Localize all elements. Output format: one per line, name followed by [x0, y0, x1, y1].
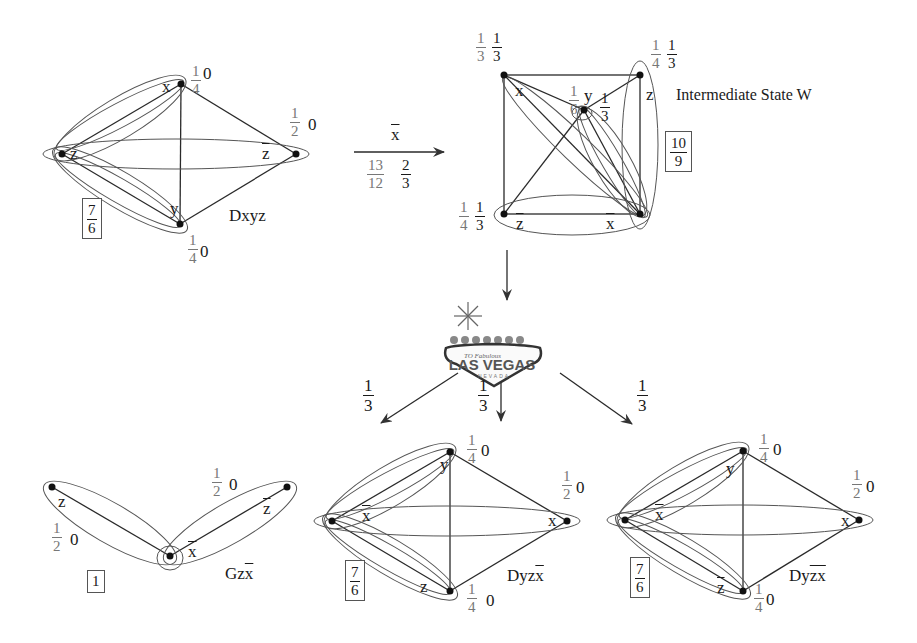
transition-label: x [391, 126, 400, 143]
weight-z-a: 14 [651, 38, 661, 71]
weight-zbar: 12 [212, 466, 222, 499]
graph-gzx [34, 468, 306, 579]
label-zbar: z [516, 215, 524, 232]
las-vegas-sign-icon: TO Fabulous LAS VEGAS NEVADA [432, 300, 556, 390]
label-y: y [440, 456, 449, 473]
boxed-value-dyzx: 76 [345, 560, 365, 601]
transition-right-value: 23 [401, 158, 411, 191]
weight-x-a: 13 [476, 31, 486, 64]
weight-y-a: 16 [569, 84, 579, 117]
weight-zbar-a: 14 [459, 200, 469, 233]
weight-x: 12 [562, 469, 572, 502]
weight-x: 12 [852, 468, 862, 501]
label-xbar: x [655, 506, 664, 523]
branch-prob-right: 13 [637, 377, 648, 414]
weight-zbar: 12 [290, 106, 300, 139]
boxed-value-intermediate: 109 [665, 131, 692, 172]
transition-left-value: 1312 [367, 158, 384, 191]
weight-z: 12 [52, 521, 62, 554]
weight-zbar: 14 [754, 582, 764, 615]
graph-title-dyzbarxbar: Dyzx [789, 567, 826, 584]
label-z: z [70, 145, 78, 162]
graph-title-intermediate: Intermediate State W [676, 86, 812, 104]
weight-z: 14 [467, 582, 477, 615]
label-zbar: z [717, 579, 725, 596]
label-y: y [726, 460, 735, 477]
graph-title-dxyz: Dxyz [229, 207, 266, 224]
label-x: x [548, 512, 557, 529]
weight-y: 14 [467, 433, 477, 466]
label-y: y [170, 200, 179, 217]
boxed-value-gzx: 1 [87, 570, 105, 593]
label-x: x [162, 78, 171, 95]
weight-y-b: 13 [600, 91, 610, 124]
label-xbar: x [606, 215, 615, 232]
boxed-value-dxyz: 76 [82, 198, 102, 239]
node-x [178, 81, 185, 88]
svg-text:LAS VEGAS: LAS VEGAS [449, 356, 536, 373]
label-x: x [515, 82, 524, 99]
weight-y: 14 [188, 233, 198, 266]
label-xbar: x [188, 543, 197, 560]
label-zbar: z [263, 500, 271, 517]
label-y: y [584, 87, 593, 104]
label-z: z [646, 86, 654, 103]
node-y [177, 221, 184, 228]
node-zbar [293, 151, 300, 158]
node-z [59, 151, 66, 158]
label-zbar: z [262, 145, 270, 162]
label-z: z [420, 578, 428, 595]
weight-z-b: 13 [667, 38, 677, 71]
branch-arrow-right [560, 373, 632, 424]
weight-x-b: 13 [492, 31, 502, 64]
weight-x: 14 [191, 64, 201, 97]
label-z: z [58, 493, 66, 510]
branch-prob-middle: 13 [478, 377, 489, 414]
boxed-value-dyzbarxbar: 76 [630, 557, 650, 598]
label-x: x [841, 512, 850, 529]
weight-zbar-b: 13 [475, 200, 485, 233]
label-xbar: x [362, 507, 371, 524]
weight-y: 14 [759, 432, 769, 465]
graph-title-dyzx: Dyzx [507, 567, 544, 584]
branch-prob-left: 13 [363, 377, 374, 414]
graph-title-gzx: Gzx [225, 565, 253, 582]
